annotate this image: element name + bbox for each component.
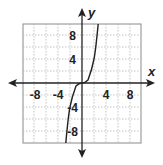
x-tick-label: 8 (127, 88, 134, 102)
x-tick-label: -4 (53, 88, 64, 102)
x-tick-label: 4 (103, 88, 110, 102)
x-axis-label: x (147, 64, 156, 79)
x-tick-label: -8 (30, 88, 41, 102)
y-tick-label: 8 (69, 29, 76, 43)
y-axis-label: y (87, 5, 96, 20)
y-tick-label: -8 (67, 125, 78, 139)
y-tick-label: -4 (67, 101, 78, 115)
y-tick-label: 4 (69, 53, 76, 67)
cubic-graph: -8 -4 4 8 8 4 -4 -8 y x (0, 0, 163, 165)
